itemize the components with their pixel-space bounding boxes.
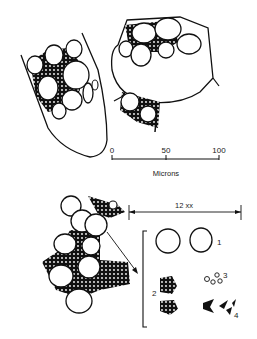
component-3-small-cells: 3 bbox=[205, 271, 229, 284]
scale-bar: 0 50 100 Microns bbox=[110, 146, 226, 178]
component-bracket bbox=[143, 231, 147, 327]
component-1-cells: 1 bbox=[156, 228, 222, 253]
component-label-3: 3 bbox=[223, 271, 228, 280]
component-label-2: 2 bbox=[152, 289, 157, 298]
rounded-section-right bbox=[112, 17, 219, 132]
component-2-fragments: 2 bbox=[152, 276, 178, 315]
magnification-indicator: 12 xx bbox=[129, 201, 241, 220]
component-4-shards: 4 bbox=[203, 299, 239, 320]
magnification-label: 12 xx bbox=[175, 201, 193, 210]
tissue-cluster bbox=[42, 196, 130, 313]
tapered-section-left bbox=[21, 33, 107, 157]
component-label-4: 4 bbox=[234, 311, 239, 320]
diagram-canvas: 0 50 100 Microns 12 xx 1 bbox=[0, 0, 257, 339]
component-label-1: 1 bbox=[217, 238, 222, 247]
scale-tick-0: 0 bbox=[110, 146, 115, 155]
scale-tick-50: 50 bbox=[162, 146, 171, 155]
scale-unit-label: Microns bbox=[153, 169, 180, 178]
scale-tick-100: 100 bbox=[212, 146, 226, 155]
